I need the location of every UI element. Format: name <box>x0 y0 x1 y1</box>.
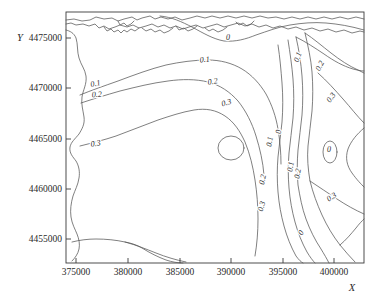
contour-plot-svg: 375000 380000 385000 390000 395000 40000… <box>0 0 379 307</box>
x-tick-label: 400000 <box>320 267 349 277</box>
contour-label: 0 <box>274 129 283 134</box>
contour-label: 0.2 <box>207 76 218 86</box>
contour-label: 0.2 <box>92 90 103 100</box>
contour-label: 0.2 <box>292 168 303 179</box>
contour-path-north-jag-5 <box>205 27 227 32</box>
contour-closed-circle <box>218 136 244 160</box>
contour-label: 0.1 <box>199 55 210 65</box>
contour-path-level0_3-main <box>80 109 258 256</box>
y-tick-label: 4460000 <box>29 184 63 194</box>
contour-label: 0.3 <box>256 200 267 212</box>
x-axis-title: X <box>348 282 356 293</box>
y-tick-label: 4475000 <box>29 33 63 43</box>
contour-path-north-jag-4 <box>176 26 197 31</box>
contour-label: 0.1 <box>264 136 275 147</box>
contour-label: 0.3 <box>220 97 232 108</box>
y-tick-label: 4470000 <box>29 83 63 93</box>
y-tick-label: 4465000 <box>29 134 63 144</box>
contour-plot-figure: 375000 380000 385000 390000 395000 40000… <box>0 0 379 307</box>
contour-label: 0.2 <box>313 59 326 72</box>
contour-label: 0 <box>327 145 331 154</box>
contour-path-east-south-lower <box>340 219 364 245</box>
x-tick-label: 375000 <box>62 267 91 277</box>
contour-label: 0 <box>226 33 230 42</box>
contour-label: 0.1 <box>292 51 304 64</box>
x-tick-label: 390000 <box>217 267 246 277</box>
contour-path-north-0 <box>66 16 364 21</box>
x-tick-label: 385000 <box>166 267 195 277</box>
contour-path-north-jag-3 <box>142 28 173 33</box>
contour-label: 0.2 <box>257 174 268 186</box>
contour-label: 0 <box>296 229 306 237</box>
contour-path-band-0_2 <box>296 37 329 263</box>
contour-label: 0.3 <box>90 138 101 148</box>
contour-path-east-0_1 <box>296 37 364 71</box>
contour-path-level0_1-main <box>80 60 281 164</box>
contour-path-east-right-lobe <box>347 128 364 187</box>
y-axis-ticks <box>66 38 71 239</box>
x-tick-label: 395000 <box>269 267 298 277</box>
y-axis-tick-labels: 4475000 4470000 4465000 4460000 4455000 <box>29 33 63 244</box>
x-axis-tick-labels: 375000 380000 385000 390000 395000 40000… <box>62 267 349 277</box>
x-axis-ticks <box>76 258 334 263</box>
y-axis-title: Y <box>17 32 24 43</box>
contour-lines <box>66 16 364 263</box>
contour-label: 0.3 <box>324 91 337 104</box>
contour-path-north-jag-1 <box>66 23 364 33</box>
y-tick-label: 4455000 <box>29 234 63 244</box>
x-tick-label: 380000 <box>114 267 143 277</box>
contour-path-level0-north <box>160 16 364 41</box>
contour-path-north-jag-2 <box>104 27 139 33</box>
